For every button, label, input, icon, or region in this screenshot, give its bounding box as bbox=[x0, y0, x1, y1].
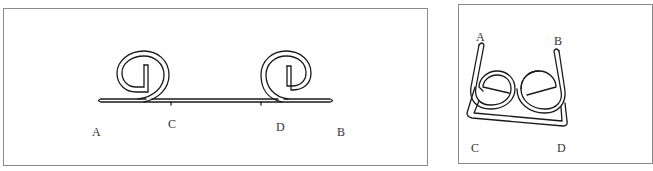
label-b: B bbox=[554, 35, 562, 47]
label-a: A bbox=[476, 31, 485, 43]
label-a: A bbox=[92, 126, 101, 138]
folded-wire-with-loops-drawing bbox=[459, 5, 653, 165]
figure-left-frame: A C D B bbox=[3, 8, 428, 166]
label-b: B bbox=[337, 126, 345, 138]
label-c: C bbox=[471, 142, 479, 154]
label-c: C bbox=[168, 118, 176, 130]
straight-wire-with-loops-drawing bbox=[4, 9, 429, 167]
label-d: D bbox=[276, 121, 285, 133]
label-d: D bbox=[557, 142, 566, 154]
figure-right-frame: A B C D bbox=[458, 4, 653, 164]
